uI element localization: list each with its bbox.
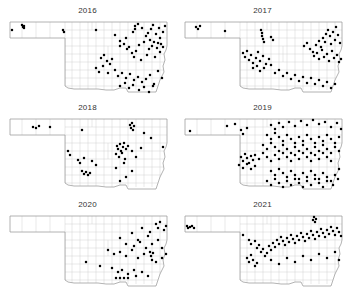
small-multiples-grid: 201620172018201920202021: [0, 5, 350, 304]
panel-2017: 2017: [175, 5, 350, 102]
panel-2021: 2021: [175, 199, 350, 299]
panel-2018: 2018: [0, 102, 175, 199]
map-2020: [8, 210, 167, 290]
panel-title: 2018: [0, 103, 175, 113]
panel-2016: 2016: [0, 5, 175, 102]
map-2019: [183, 113, 342, 193]
panel-2020: 2020: [0, 199, 175, 299]
panel-title: 2016: [0, 6, 175, 16]
panel-2019: 2019: [175, 102, 350, 199]
panel-title: 2021: [175, 200, 350, 210]
panel-title: 2020: [0, 200, 175, 210]
panel-title: 2017: [175, 6, 350, 16]
map-2018: [8, 113, 167, 193]
map-2016: [8, 16, 167, 96]
figure-root: 201620172018201920202021: [0, 0, 350, 304]
map-2017: [183, 16, 342, 96]
map-2021: [183, 210, 342, 290]
panel-title: 2019: [175, 103, 350, 113]
